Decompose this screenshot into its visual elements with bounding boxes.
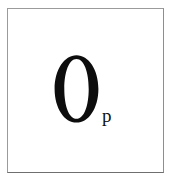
scan-canvas: p [0, 0, 173, 182]
figure-frame-border [7, 8, 164, 173]
